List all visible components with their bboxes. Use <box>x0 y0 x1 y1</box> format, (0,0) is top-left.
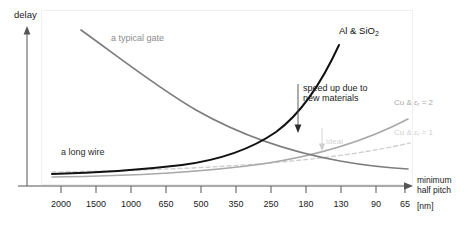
x-tick-label: 65 <box>400 199 410 209</box>
curve-label-cu-epsilon-r-1: Cu & εr = 1 <box>394 128 433 138</box>
x-tick-label: 500 <box>193 199 208 209</box>
x-tick-label: 2000 <box>51 199 71 209</box>
speedup-annotation-text: speed up due to new materials <box>303 83 368 104</box>
curve-label-cu-epsilon-r-2: Cu & εr = 2 <box>394 98 433 108</box>
cu-er2-suffix: = 2 <box>419 98 433 107</box>
al-sio2-subscript: 2 <box>375 30 379 37</box>
chart-canvas: delay a typical gate Al & SiO2 a long wi… <box>0 0 468 230</box>
x-tick-label: 250 <box>263 199 278 209</box>
y-axis-title: delay <box>14 10 37 21</box>
x-tick-label: 350 <box>228 199 243 209</box>
ideal-annotation-arrow <box>319 128 325 151</box>
x-tick-label: 130 <box>333 199 348 209</box>
x-axis-ticks <box>61 186 405 193</box>
x-axis-unit: [nm] <box>417 202 434 212</box>
cu-er2-prefix: Cu & <box>394 98 414 107</box>
y-axis <box>24 26 31 186</box>
cu-er1-prefix: Cu & <box>394 128 414 137</box>
x-tick-label: 90 <box>371 199 381 209</box>
speedup-line-1: speed up due to <box>303 83 368 93</box>
curve-label-typical-gate: a typical gate <box>111 33 164 43</box>
x-tick-label: 180 <box>298 199 313 209</box>
cu-er1-suffix: = 1 <box>419 128 433 137</box>
al-sio2-text: Al & SiO <box>339 25 375 36</box>
x-tick-label: 1000 <box>121 199 141 209</box>
x-tick-label: 650 <box>158 199 173 209</box>
x-axis-title: minimum half pitch <box>417 176 451 196</box>
curve-label-long-wire: a long wire <box>61 147 105 157</box>
ideal-annotation-text: ideal <box>326 137 343 146</box>
speedup-line-2: new materials <box>303 93 368 103</box>
x-tick-label: 1500 <box>86 199 106 209</box>
curve-label-al-sio2: Al & SiO2 <box>339 26 379 38</box>
x-axis-title-line-2: half pitch <box>417 186 451 196</box>
x-axis <box>18 182 413 190</box>
delay-vs-half-pitch-chart <box>0 0 468 230</box>
